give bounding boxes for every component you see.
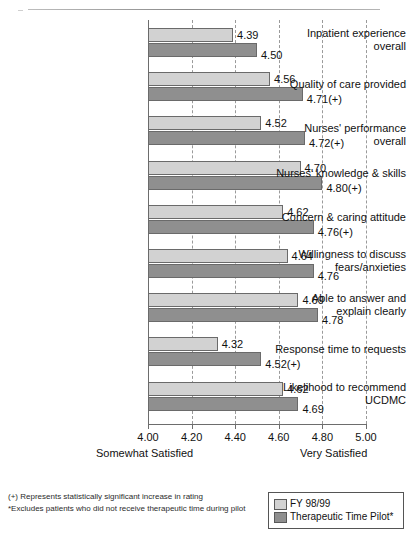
legend-item-0: FY 98/99	[274, 498, 399, 510]
bar-value-label: 4.80(+)	[326, 183, 361, 194]
bar-0-7	[148, 337, 218, 351]
x-tick-label: 5.00	[341, 431, 391, 444]
x-tick-label: 4.40	[210, 431, 260, 444]
chart-legend: FY 98/99Therapeutic Time Pilot*	[268, 492, 404, 529]
category-label-line: Inpatient experience	[270, 27, 406, 40]
category-label-line: Quality of care provided	[270, 78, 406, 91]
category-label-line: overall	[270, 40, 406, 53]
category-label-0: Inpatient experienceoverall	[270, 27, 412, 53]
category-label-line: UCDMC	[270, 394, 406, 407]
axis-anchor-low-label: Somewhat Satisfied	[96, 447, 193, 459]
tickmark-4.80	[322, 424, 323, 429]
bar-0-0	[148, 28, 233, 42]
bar-0-1	[148, 72, 270, 86]
category-label-line: Nurses' knowledge & skills	[270, 167, 406, 180]
category-label-4: Concern & caring attitude	[270, 211, 412, 224]
bar-1-0	[148, 43, 257, 57]
category-label-5: Willingness to discussfears/anxieties	[270, 248, 412, 274]
tickmark-4.40	[235, 424, 236, 429]
category-label-8: Likelihood to recommendUCDMC	[270, 381, 412, 407]
bar-value-label: 4.52(+)	[265, 359, 300, 370]
category-label-line: Nurses' performance overall	[270, 122, 406, 148]
category-label-line: fears/anxieties	[270, 261, 406, 274]
legend-label: Therapeutic Time Pilot*	[290, 511, 393, 523]
x-tick-label: 4.00	[123, 431, 173, 444]
x-tick-label: 4.80	[297, 431, 347, 444]
bar-value-label: 4.71(+)	[307, 94, 342, 105]
bar-0-5	[148, 249, 288, 263]
category-label-line: Able to answer and	[270, 292, 406, 305]
plot-area: 4.394.504.564.71(+)4.524.72(+)4.704.80(+…	[0, 0, 412, 430]
footnote: *Excludes patients who did not receive t…	[8, 503, 238, 515]
legend-swatch-icon	[274, 499, 287, 510]
tickmark-4.00	[148, 424, 149, 429]
x-tick-label: 4.60	[254, 431, 304, 444]
tickmark-4.20	[192, 424, 193, 429]
legend-item-1: Therapeutic Time Pilot*	[274, 511, 399, 523]
category-label-line: Concern & caring attitude	[270, 211, 406, 224]
x-tick-label: 4.20	[167, 431, 217, 444]
axis-anchor-high-label: Very Satisfied	[300, 447, 367, 459]
category-label-1: Quality of care provided	[270, 78, 412, 91]
category-label-line: Response time to requests	[270, 343, 406, 356]
bar-value-label: 4.76(+)	[318, 227, 353, 238]
category-label-line: Willingness to discuss	[270, 248, 406, 261]
bar-value-label: 4.32	[222, 339, 243, 350]
category-label-6: Able to answer andexplain clearly	[270, 292, 412, 318]
category-label-line: Likelihood to recommend	[270, 381, 406, 394]
bar-1-7	[148, 352, 261, 366]
tickmark-5.00	[366, 424, 367, 429]
category-label-3: Nurses' knowledge & skills	[270, 167, 412, 180]
legend-label: FY 98/99	[290, 498, 330, 510]
footnote-group: (+) Represents statistically significant…	[8, 491, 238, 515]
tickmark-4.60	[279, 424, 280, 429]
footnote: (+) Represents statistically significant…	[8, 491, 238, 503]
horizontal-bar-chart: 4.394.504.564.71(+)4.524.72(+)4.704.80(+…	[0, 0, 412, 536]
bar-0-8	[148, 382, 283, 396]
bar-0-4	[148, 205, 283, 219]
x-axis-line	[148, 424, 367, 425]
category-label-line: explain clearly	[270, 305, 406, 318]
category-label-2: Nurses' performance overall	[270, 122, 412, 148]
bar-value-label: 4.39	[237, 30, 258, 41]
bar-0-2	[148, 116, 261, 130]
legend-swatch-icon	[274, 512, 287, 523]
category-label-7: Response time to requests	[270, 343, 412, 356]
